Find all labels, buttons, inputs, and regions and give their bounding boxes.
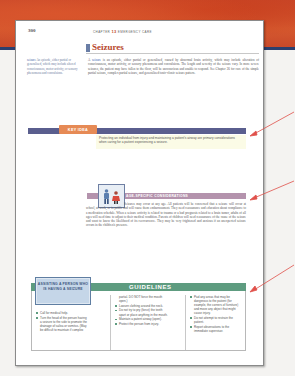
age-specific-arrow-icon <box>250 181 294 200</box>
guidelines-arrow-icon <box>250 265 294 292</box>
annotation-arrows <box>0 0 295 376</box>
key-idea-arrow-icon <box>250 112 294 136</box>
